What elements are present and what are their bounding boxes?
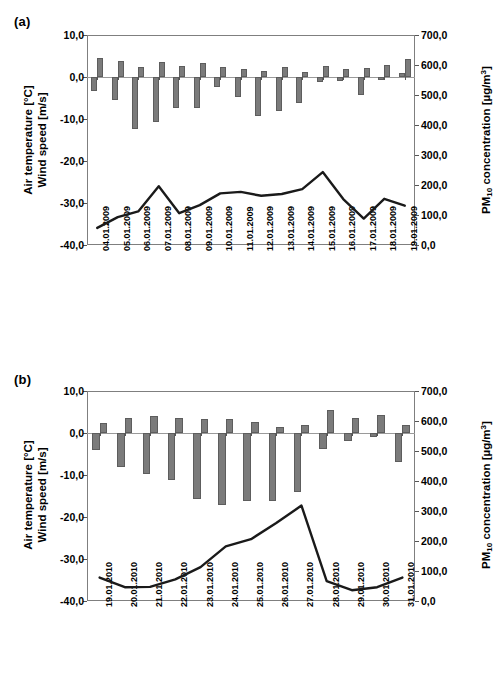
- panel-a-left-axis-title-line2: Wind speed [m/s]: [36, 92, 48, 187]
- panel-b-right-tick-label: 100,0: [421, 565, 447, 577]
- panel-a-right-tick-label: 700,0: [421, 29, 447, 41]
- panel-b-left-axis-title: Air temperature [°C] Wind speed [m/s]: [22, 380, 49, 610]
- panel-b-right-tick-label: 600,0: [421, 415, 447, 427]
- panel-b-right-axis-title: PM10 concentration [µg/m3]: [480, 375, 492, 615]
- panel-b-right-tick-label: 300,0: [421, 505, 447, 517]
- panel-b-right-tick-label: 700,0: [421, 385, 447, 397]
- panel-a-right-tickmark: [415, 65, 419, 66]
- panel-a-right-tick-label: 100,0: [421, 209, 447, 221]
- chart-panel-b: (b) Air temperature [°C] Wind speed [m/s…: [0, 360, 498, 692]
- panel-a-right-tick-label: 200,0: [421, 179, 447, 191]
- panel-b-right-tick-label: 400,0: [421, 475, 447, 487]
- panel-a-left-axis-title-line1: Air temperature [°C]: [22, 85, 34, 194]
- panel-b-left-tick-label: -10,0: [60, 469, 84, 481]
- panel-a-right-tickmark: [415, 185, 419, 186]
- panel-a-left-tick-label: -40,0: [60, 239, 84, 251]
- panel-b-left-tick-label: -20,0: [60, 511, 84, 523]
- panel-b-left-tick-label: -40,0: [60, 595, 84, 607]
- panel-a-right-tick-label: 600,0: [421, 59, 447, 71]
- panel-b-plot-area: 10,00,0-10,0-20,0-30,0-40,0700,0600,0500…: [87, 391, 415, 601]
- panel-b-left-tick-label: 0,0: [69, 427, 84, 439]
- panel-a-right-tickmark: [415, 95, 419, 96]
- panel-a-right-axis-title: PM10 concentration [µg/m3]: [480, 20, 492, 260]
- panel-a-left-tick-label: -20,0: [60, 155, 84, 167]
- panel-a-left-tick-label: -10,0: [60, 113, 84, 125]
- panel-b-right-tickmark: [415, 451, 419, 452]
- panel-b-pm10-line: [87, 391, 415, 601]
- panel-a-left-tick-label: 10,0: [64, 29, 84, 41]
- panel-a-right-tickmark: [415, 35, 419, 36]
- panel-b-right-tickmark: [415, 541, 419, 542]
- panel-b-right-tickmark: [415, 481, 419, 482]
- panel-a-pm10-line: [87, 35, 415, 245]
- panel-b-left-axis-title-line1: Air temperature [°C]: [22, 440, 34, 549]
- panel-a-right-tick-label: 300,0: [421, 149, 447, 161]
- panel-b-right-tickmark: [415, 391, 419, 392]
- panel-a-left-axis-title: Air temperature [°C] Wind speed [m/s]: [22, 25, 49, 255]
- chart-panel-a: (a) Air temperature [°C] Wind speed [m/s…: [0, 0, 498, 360]
- panel-b-right-tick-label: 0,0: [421, 595, 436, 607]
- panel-a-right-tick-label: 0,0: [421, 239, 436, 251]
- panel-b-left-tick-label: -30,0: [60, 553, 84, 565]
- panel-a-right-tick-label: 500,0: [421, 89, 447, 101]
- panel-b-left-tick-label: 10,0: [64, 385, 84, 397]
- panel-a-right-tick-label: 400,0: [421, 119, 447, 131]
- panel-b-right-tickmark: [415, 421, 419, 422]
- panel-b-left-axis-title-line2: Wind speed [m/s]: [36, 447, 48, 542]
- panel-b-right-tick-label: 500,0: [421, 445, 447, 457]
- panel-a-right-tickmark: [415, 125, 419, 126]
- panel-a-right-tickmark: [415, 155, 419, 156]
- panel-b-right-tickmark: [415, 511, 419, 512]
- panel-a-plot-area: 10,00,0-10,0-20,0-30,0-40,0700,0600,0500…: [87, 35, 415, 245]
- panel-a-left-tick-label: -30,0: [60, 197, 84, 209]
- panel-a-left-tick-label: 0,0: [69, 71, 84, 83]
- panel-b-right-tick-label: 200,0: [421, 535, 447, 547]
